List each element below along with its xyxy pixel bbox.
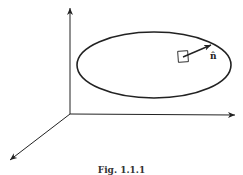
y-axis [10, 114, 70, 160]
x-axis [70, 114, 235, 115]
closed-surface [77, 32, 231, 98]
coordinate-axes [10, 8, 235, 160]
figure-caption: Fig. 1.1.1 [0, 165, 243, 175]
diagram-canvas: n̂ [0, 0, 243, 175]
normal-label: n̂ [210, 51, 217, 61]
